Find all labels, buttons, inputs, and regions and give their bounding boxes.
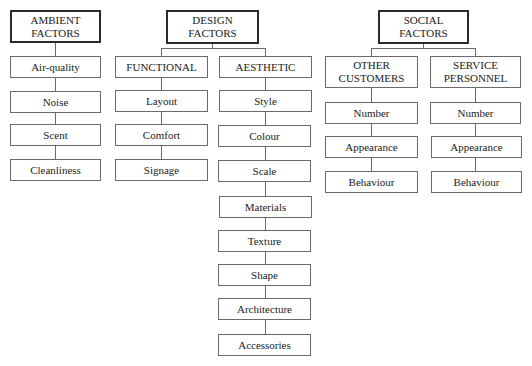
aesthetic-box: AESTHETIC (219, 56, 312, 78)
service-personnel-line2: PERSONNEL (444, 72, 508, 84)
aesthetic-item-accessories: Accessories (218, 334, 311, 356)
service-personnel-box: SERVICEPERSONNEL (430, 56, 521, 88)
ambient-root-line1: AMBIENT (30, 14, 80, 26)
connector-functional-drop (161, 48, 162, 56)
aesthetic-item-texture: Texture (218, 230, 311, 252)
social-root-line1: SOCIAL (404, 14, 444, 26)
aesthetic-item-colour: Colour (218, 125, 311, 147)
personnel-item-number: Number (430, 102, 521, 124)
design-factors-box: DESIGNFACTORS (166, 10, 259, 44)
customers-item-behaviour: Behaviour (325, 171, 418, 193)
personnel-item-behaviour: Behaviour (431, 171, 522, 193)
customers-item-appearance: Appearance (325, 136, 418, 158)
other-customers-line2: CUSTOMERS (339, 72, 405, 84)
ambient-item-cleanliness: Cleanliness (10, 159, 101, 181)
social-root-line2: FACTORS (399, 27, 448, 39)
connector-design-split (161, 48, 265, 49)
ambient-root-line2: FACTORS (31, 27, 80, 39)
connector-personnel-spine (475, 88, 476, 171)
service-personnel-line1: SERVICE (453, 59, 498, 71)
design-root-line2: FACTORS (188, 27, 237, 39)
functional-item-comfort: Comfort (115, 124, 208, 146)
aesthetic-item-scale: Scale (218, 160, 311, 182)
connector-customers-drop (371, 48, 372, 56)
connector-aesthetic-drop (265, 48, 266, 56)
aesthetic-item-architecture: Architecture (218, 298, 311, 320)
connector-social-split (371, 48, 475, 49)
social-factors-box: SOCIALFACTORS (378, 10, 469, 44)
ambient-item-noise: Noise (10, 91, 101, 113)
ambient-item-air-quality: Air-quality (10, 56, 101, 78)
design-root-line1: DESIGN (192, 14, 232, 26)
connector-customers-spine (371, 88, 372, 171)
connector-personnel-drop (475, 48, 476, 56)
functional-item-signage: Signage (115, 159, 208, 181)
ambient-item-scent: Scent (10, 124, 101, 146)
aesthetic-item-style: Style (219, 90, 312, 112)
functional-box: FUNCTIONAL (115, 56, 208, 78)
aesthetic-item-materials: Materials (219, 196, 312, 218)
other-customers-box: OTHERCUSTOMERS (325, 56, 418, 88)
aesthetic-item-shape: Shape (218, 264, 311, 286)
ambient-factors-box: AMBIENTFACTORS (10, 10, 101, 43)
functional-item-layout: Layout (115, 90, 208, 112)
other-customers-line1: OTHER (353, 59, 390, 71)
personnel-item-appearance: Appearance (431, 136, 522, 158)
customers-item-number: Number (325, 102, 418, 124)
